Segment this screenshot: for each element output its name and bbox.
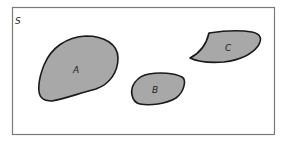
universe-label: S: [15, 16, 21, 26]
set-c-label: C: [225, 43, 232, 53]
set-a-label: A: [72, 65, 79, 75]
set-b-label: B: [152, 85, 158, 95]
venn-diagram: S A B C: [0, 0, 288, 143]
